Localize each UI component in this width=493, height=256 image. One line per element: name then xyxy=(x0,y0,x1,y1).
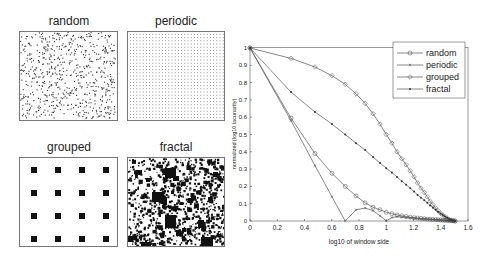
panel-grouped: grouped xyxy=(18,140,120,248)
svg-text:0: 0 xyxy=(248,224,252,231)
chart-axes: 00.20.40.60.811.21.41.600.10.20.30.40.50… xyxy=(239,45,473,231)
svg-text:0.3: 0.3 xyxy=(239,166,248,172)
svg-text:1.2: 1.2 xyxy=(409,224,418,231)
panel-periodic: periodic xyxy=(125,14,227,122)
x-axis-label: log10 of window side xyxy=(329,238,390,246)
svg-text:1.6: 1.6 xyxy=(463,224,472,231)
chart-series xyxy=(248,46,458,224)
svg-text:0.6: 0.6 xyxy=(239,114,248,120)
svg-text:fractal: fractal xyxy=(426,84,451,94)
series-periodic xyxy=(249,47,456,222)
fractal-pattern-image xyxy=(127,157,225,247)
legend-item-random: random xyxy=(397,48,457,58)
svg-text:0.7: 0.7 xyxy=(239,97,248,103)
svg-text:0.8: 0.8 xyxy=(354,224,363,231)
random-pattern-image xyxy=(19,31,118,121)
panel-title: periodic xyxy=(125,14,227,28)
panel-fractal: fractal xyxy=(125,140,227,248)
svg-text:periodic: periodic xyxy=(426,60,458,70)
svg-text:0.9: 0.9 xyxy=(239,62,248,68)
series-grouped xyxy=(248,46,458,224)
legend-item-grouped: grouped xyxy=(397,72,459,82)
svg-text:grouped: grouped xyxy=(426,72,459,82)
periodic-pattern-image xyxy=(127,31,225,121)
svg-text:0.8: 0.8 xyxy=(239,80,248,86)
chart-legend: randomperiodicgroupedfractal xyxy=(393,42,465,98)
svg-text:1: 1 xyxy=(384,224,388,231)
y-axis-label: normalized (log10 lacunarity) xyxy=(231,99,237,170)
series-fractal xyxy=(249,47,456,222)
panel-title: grouped xyxy=(18,140,120,154)
svg-text:0: 0 xyxy=(244,218,248,224)
svg-text:0.1: 0.1 xyxy=(239,201,248,207)
series-random xyxy=(248,46,457,223)
svg-text:0.2: 0.2 xyxy=(273,224,282,231)
svg-text:random: random xyxy=(426,48,457,58)
panel-title: random xyxy=(18,14,120,28)
svg-text:0.6: 0.6 xyxy=(327,224,336,231)
legend-item-fractal: fractal xyxy=(397,84,451,94)
panel-random: random xyxy=(18,14,120,122)
panel-title: fractal xyxy=(125,140,227,154)
grouped-pattern-image xyxy=(19,157,118,247)
svg-text:1: 1 xyxy=(244,45,248,51)
legend-item-periodic: periodic xyxy=(397,60,458,70)
svg-text:1.4: 1.4 xyxy=(436,224,445,231)
svg-text:0.2: 0.2 xyxy=(239,183,248,189)
svg-text:0.5: 0.5 xyxy=(239,132,248,138)
svg-text:0.4: 0.4 xyxy=(239,149,248,155)
svg-text:0.4: 0.4 xyxy=(300,224,309,231)
